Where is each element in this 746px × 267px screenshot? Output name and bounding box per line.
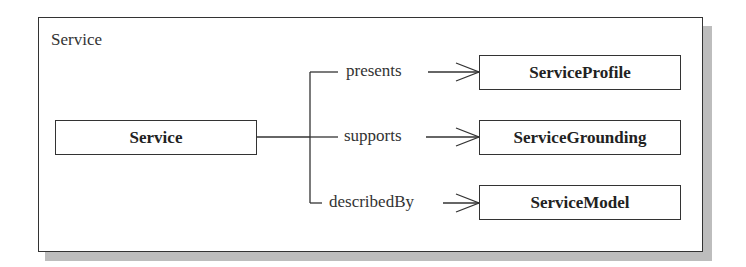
target-label: ServiceModel	[530, 193, 629, 213]
service-grounding-box: ServiceGrounding	[479, 120, 681, 155]
relation-describedby: describedBy	[326, 192, 417, 212]
target-label: ServiceGrounding	[514, 128, 647, 148]
service-profile-box: ServiceProfile	[479, 55, 681, 90]
relation-presents: presents	[343, 61, 405, 81]
source-label: Service	[130, 128, 183, 148]
target-label: ServiceProfile	[529, 63, 631, 83]
relation-supports: supports	[341, 126, 405, 146]
service-source-box: Service	[55, 120, 257, 155]
service-model-box: ServiceModel	[479, 185, 681, 220]
